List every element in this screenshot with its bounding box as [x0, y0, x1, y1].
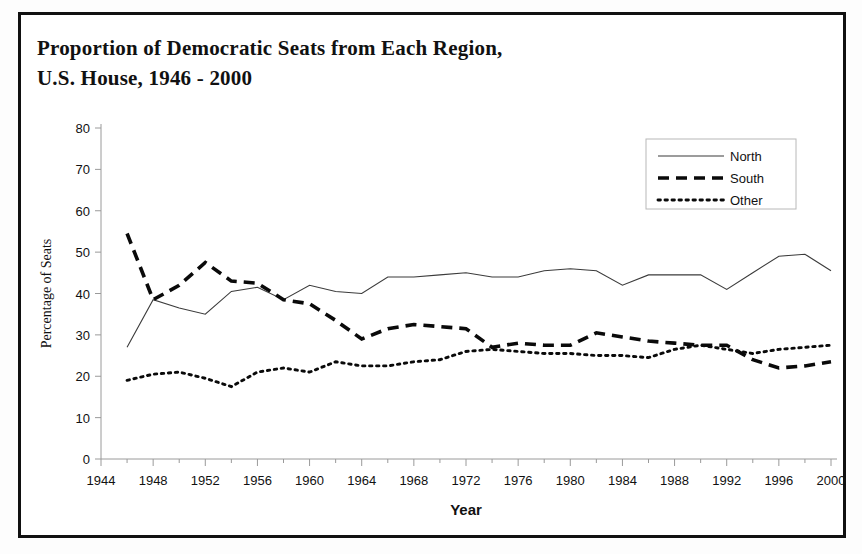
y-tick-label: 60: [76, 204, 90, 219]
y-tick-label: 40: [76, 287, 90, 302]
y-tick-label: 80: [76, 121, 90, 136]
x-axis-ticks: [101, 459, 831, 466]
y-tick-label: 0: [83, 452, 90, 467]
x-tick-label: 1964: [347, 473, 376, 488]
x-tick-label: 1984: [608, 473, 637, 488]
y-axis-ticks: [95, 128, 101, 459]
plot-area: 01020304050607080 1944194819521956196019…: [21, 15, 849, 541]
chart-legend: NorthSouthOther: [646, 139, 796, 209]
y-tick-label: 50: [76, 245, 90, 260]
figure-frame: Proportion of Democratic Seats from Each…: [18, 12, 846, 538]
y-tick-label: 70: [76, 162, 90, 177]
x-tick-label: 1948: [139, 473, 168, 488]
y-axis-tick-labels: 01020304050607080: [76, 121, 90, 467]
x-tick-label: 1996: [764, 473, 793, 488]
y-axis-title: Percentage of Seats: [39, 239, 54, 349]
legend-label: North: [730, 149, 762, 164]
series-line-north: [127, 254, 831, 347]
y-tick-label: 10: [76, 411, 90, 426]
x-tick-label: 1960: [295, 473, 324, 488]
legend-box: [646, 139, 796, 209]
x-tick-label: 1944: [87, 473, 116, 488]
series-line-other: [127, 345, 831, 386]
x-axis-title: Year: [450, 501, 482, 518]
figure-page: Proportion of Democratic Seats from Each…: [0, 0, 862, 554]
x-tick-label: 1988: [660, 473, 689, 488]
x-tick-label: 1980: [556, 473, 585, 488]
x-tick-label: 1956: [243, 473, 272, 488]
x-tick-label: 2000: [817, 473, 846, 488]
legend-label: Other: [730, 193, 763, 208]
y-tick-label: 20: [76, 369, 90, 384]
x-tick-label: 1972: [452, 473, 481, 488]
legend-label: South: [730, 171, 764, 186]
x-tick-label: 1976: [504, 473, 533, 488]
line-chart: 01020304050607080 1944194819521956196019…: [21, 15, 849, 541]
y-tick-label: 30: [76, 328, 90, 343]
x-tick-label: 1952: [191, 473, 220, 488]
x-axis-tick-labels: 1944194819521956196019641968197219761980…: [87, 473, 846, 488]
x-tick-label: 1968: [399, 473, 428, 488]
x-tick-label: 1992: [712, 473, 741, 488]
